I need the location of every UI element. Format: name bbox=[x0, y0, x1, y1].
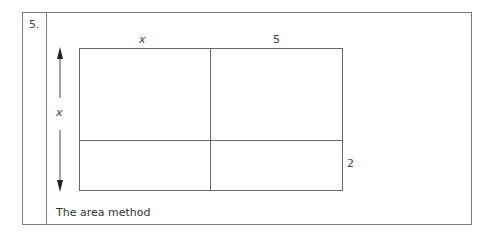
caption: The area method bbox=[56, 206, 150, 219]
double-arrow-icon bbox=[0, 0, 494, 237]
